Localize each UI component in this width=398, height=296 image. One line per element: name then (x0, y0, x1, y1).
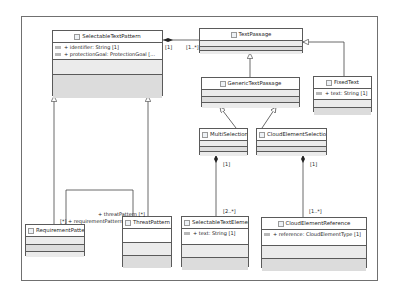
extra-compartment (200, 152, 247, 156)
multiplicity-label: [1] (310, 161, 317, 167)
extra-compartment (182, 258, 248, 270)
operations-compartment (123, 243, 171, 256)
attribute-row: + text: String [1] (316, 90, 369, 97)
attributes-compartment: + text: String [1] (314, 89, 371, 100)
class-header: CloudElementReference (262, 218, 366, 230)
attributes-compartment: + identifier: String [1] + protectionGoa… (53, 43, 162, 60)
extra-compartment (26, 252, 84, 257)
attributes-compartment (202, 90, 299, 97)
attributes-compartment (123, 229, 171, 243)
extra-compartment (202, 103, 299, 108)
class-text-passage[interactable]: TextPassage (199, 28, 303, 53)
operations-compartment (53, 60, 162, 75)
multiplicity-label: [1] (165, 44, 172, 50)
class-icon (231, 32, 237, 38)
class-header: CloudElementSelection (257, 129, 326, 141)
class-header: FixedText (314, 77, 371, 89)
attribute-icon (55, 53, 61, 56)
multiplicity-label: [1] (223, 161, 230, 167)
operations-compartment (262, 246, 366, 259)
class-icon (28, 228, 34, 234)
class-header: MultiSelection (200, 129, 247, 141)
attributes-compartment (26, 237, 84, 245)
extra-compartment (53, 75, 162, 98)
multiplicity-label: [1..*] (309, 208, 322, 214)
attribute-icon (55, 46, 61, 49)
class-header: SelectableTextPattern (53, 31, 162, 43)
attribute-row: + identifier: String [1] (55, 44, 160, 51)
extra-compartment (200, 51, 302, 54)
extra-compartment (262, 259, 366, 271)
extra-compartment (257, 152, 326, 156)
extra-compartment (123, 256, 171, 268)
attribute-icon (316, 92, 322, 95)
class-requirement-pattern[interactable]: RequirementPattern (25, 224, 85, 256)
attribute-icon (184, 232, 190, 235)
class-selectable-text-element[interactable]: SelectableTextElement + text: String [1] (181, 216, 249, 267)
class-selectable-text-pattern[interactable]: SelectableTextPattern + identifier: Stri… (52, 30, 163, 96)
operations-compartment (182, 245, 248, 258)
multiplicity-label: [1..*] (186, 44, 199, 50)
attribute-row: + protectionGoal: ProtectionGoal [... (55, 51, 160, 58)
class-header: RequirementPattern (26, 225, 84, 237)
attributes-compartment: + text: String [1] (182, 229, 248, 245)
attribute-row: + text: String [1] (184, 230, 246, 237)
class-icon (202, 132, 208, 138)
class-threat-pattern[interactable]: ThreatPattern (122, 216, 172, 267)
extra-compartment (314, 108, 371, 115)
attribute-icon (264, 233, 270, 236)
class-cloud-element-selection[interactable]: CloudElementSelection (256, 128, 327, 155)
class-cloud-element-reference[interactable]: CloudElementReference + reference: Cloud… (261, 217, 367, 268)
class-header: TextPassage (200, 29, 302, 41)
class-generic-text-passage[interactable]: GenericTextPassage (201, 77, 300, 107)
class-icon (220, 81, 226, 87)
class-icon (278, 221, 284, 227)
class-icon (74, 34, 80, 40)
attributes-compartment: + reference: CloudElementType [1] (262, 230, 366, 246)
operations-compartment (314, 100, 371, 108)
operations-compartment (26, 245, 84, 252)
multiplicity-label: [2..*] (223, 208, 236, 214)
role-label-threat-pattern: + threatPattern [*] (98, 211, 145, 217)
class-header: ThreatPattern (123, 217, 171, 229)
class-header: GenericTextPassage (202, 78, 299, 90)
class-icon (125, 220, 131, 226)
class-multi-selection[interactable]: MultiSelection (199, 128, 248, 155)
class-icon (184, 220, 190, 226)
class-header: SelectableTextElement (182, 217, 248, 229)
role-label-requirement-pattern: [*] + requirementPattern (60, 218, 123, 224)
attribute-row: + reference: CloudElementType [1] (264, 231, 364, 238)
class-fixed-text[interactable]: FixedText + text: String [1] (313, 76, 372, 112)
class-icon (326, 80, 332, 86)
class-icon (259, 132, 265, 138)
